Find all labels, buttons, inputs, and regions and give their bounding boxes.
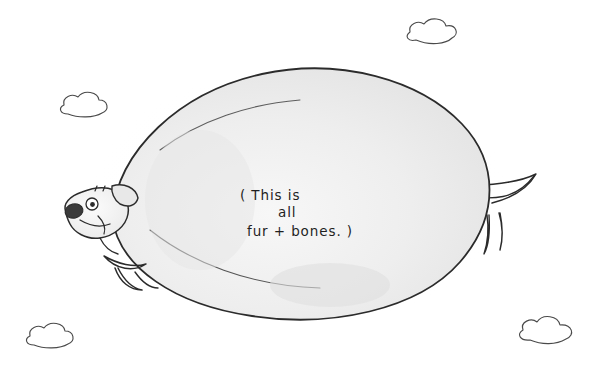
cartoon-canvas: ( This is all fur + bones. ) — [0, 0, 596, 374]
caption-line-3: fur + bones. ) — [247, 223, 353, 239]
caption-line-1: ( This is — [240, 187, 300, 203]
caption-line-2: all — [278, 204, 296, 220]
pupil — [90, 202, 95, 207]
body-shading-left — [145, 130, 255, 270]
cartoon-drawing: ( This is all fur + bones. ) — [0, 0, 596, 374]
body-shading-belly — [270, 263, 390, 307]
